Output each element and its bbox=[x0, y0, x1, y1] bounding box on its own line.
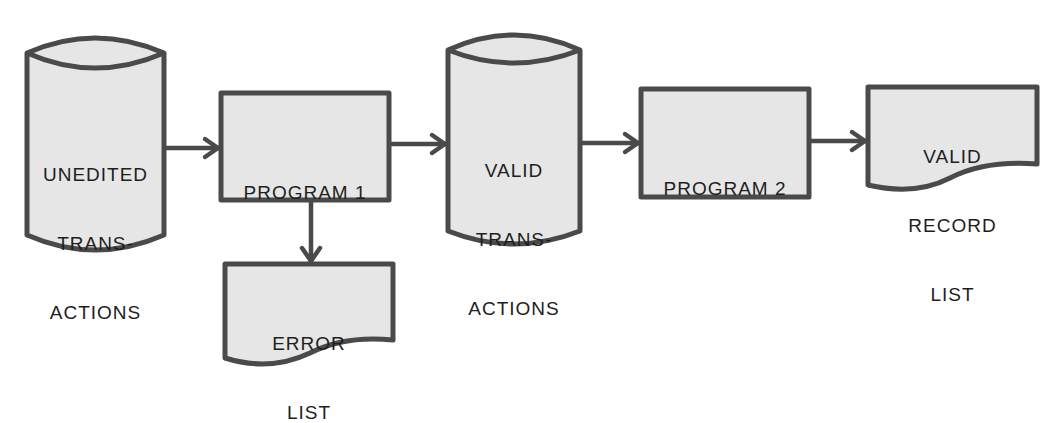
unedited-transactions-label: UNEDITED TRANS- ACTIONS bbox=[27, 117, 164, 347]
label-line: TRANS- bbox=[448, 228, 580, 251]
label-line: RECORD bbox=[868, 214, 1037, 237]
label-line: VALID bbox=[868, 145, 1037, 168]
program-1-label: PROGRAM 1 bbox=[221, 135, 389, 227]
label-line: ACTIONS bbox=[27, 301, 164, 324]
label-line: LIST bbox=[868, 283, 1037, 306]
valid-transactions-label: VALID TRANS- ACTIONS bbox=[448, 113, 580, 343]
label-line: UNEDITED bbox=[27, 163, 164, 186]
label-line: ERROR bbox=[225, 332, 393, 355]
arrow-program1-to-valid bbox=[391, 135, 446, 153]
arrow-valid-to-program2 bbox=[582, 134, 639, 152]
valid-record-list-label: VALID RECORD LIST bbox=[868, 99, 1037, 329]
label-line: TRANS- bbox=[27, 232, 164, 255]
label-line: ACTIONS bbox=[448, 297, 580, 320]
arrow-program2-to-validlist bbox=[811, 132, 866, 150]
label-line: VALID bbox=[448, 159, 580, 182]
label-line: PROGRAM 1 bbox=[221, 181, 389, 204]
error-list-label: ERROR LIST bbox=[225, 286, 393, 423]
label-line: PROGRAM 2 bbox=[641, 177, 809, 200]
program-2-label: PROGRAM 2 bbox=[641, 131, 809, 223]
label-line: LIST bbox=[225, 401, 393, 423]
arrow-unedited-to-program1 bbox=[166, 139, 219, 157]
